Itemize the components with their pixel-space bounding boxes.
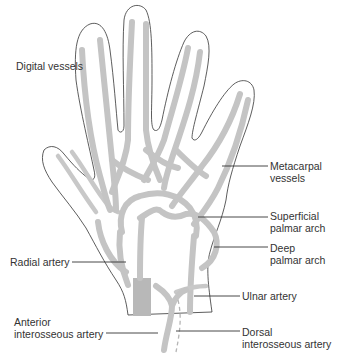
radial-artery-wrist-segment xyxy=(133,278,151,316)
label-anterior-line2: interosseous artery xyxy=(14,328,103,340)
label-anterior-line1: Anterior xyxy=(14,316,103,328)
label-radial-artery: Radial artery xyxy=(10,256,70,268)
label-deep-line1: Deep xyxy=(270,242,325,254)
label-dorsal-line2: interosseous artery xyxy=(242,338,331,350)
label-dorsal-interosseous-artery: Dorsal interosseous artery xyxy=(242,326,331,350)
label-ulnar-artery: Ulnar artery xyxy=(242,290,297,302)
label-dorsal-line1: Dorsal xyxy=(242,326,331,338)
label-deep-palmar-arch: Deep palmar arch xyxy=(270,242,325,266)
label-deep-line2: palmar arch xyxy=(270,254,325,266)
label-metacarpal-vessels: Metacarpal vessels xyxy=(270,160,322,184)
label-superficial-line2: palmar arch xyxy=(270,222,325,234)
label-superficial-line1: Superficial xyxy=(270,210,325,222)
label-digital-vessels: Digital vessels xyxy=(16,60,83,72)
label-metacarpal-line1: Metacarpal xyxy=(270,160,322,172)
label-anterior-interosseous-artery: Anterior interosseous artery xyxy=(14,316,103,340)
label-superficial-palmar-arch: Superficial palmar arch xyxy=(270,210,325,234)
label-metacarpal-line2: vessels xyxy=(270,172,322,184)
radial-artery-upper xyxy=(140,218,142,278)
